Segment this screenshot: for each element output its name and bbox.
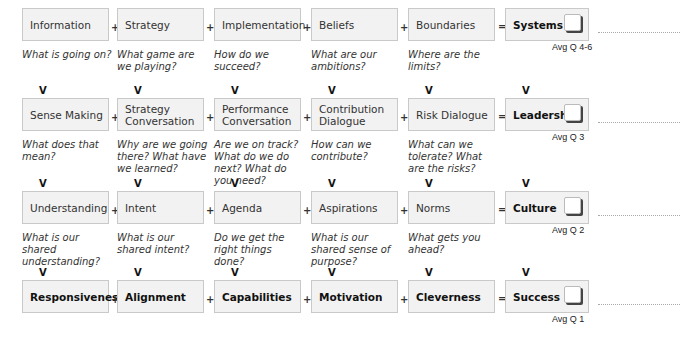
avg-label: Avg Q 2 [552, 225, 584, 235]
factor-box: Responsiveness [22, 280, 109, 313]
factor-box: Strategy [117, 8, 204, 41]
factor-box: Intent [117, 191, 204, 224]
factor-box: Information [22, 8, 109, 41]
factor-box: Alignment [117, 280, 204, 313]
question-text: Are we on track? What do we do next? Wha… [214, 139, 305, 187]
down-arrow-icon: V [425, 85, 433, 96]
avg-label: Avg Q 1 [552, 314, 584, 324]
down-arrow-icon: V [134, 267, 142, 278]
down-arrow-icon: V [328, 178, 336, 189]
factor-box: Performance Conversation [214, 98, 301, 131]
question-text: Do we get the right things done? [214, 232, 305, 268]
question-text: How can we contribute? [311, 139, 402, 163]
factor-box: Capabilities [214, 280, 301, 313]
factor-box: Norms [408, 191, 495, 224]
avg-label: Avg Q 3 [552, 132, 584, 142]
down-arrow-icon: V [522, 85, 530, 96]
question-text: What is going on? [22, 49, 113, 61]
factor-box: Contribution Dialogue [311, 98, 398, 131]
factor-box: Risk Dialogue [408, 98, 495, 131]
down-arrow-icon: V [134, 85, 142, 96]
factor-box: Sense Making [22, 98, 109, 131]
question-text: What does that mean? [22, 139, 113, 163]
down-arrow-icon: V [231, 85, 239, 96]
question-text: What is our shared intent? [117, 232, 208, 256]
question-text: What gets you ahead? [408, 232, 499, 256]
down-arrow-icon: V [328, 85, 336, 96]
down-arrow-icon: V [425, 178, 433, 189]
score-line [598, 215, 680, 216]
down-arrow-icon: V [231, 178, 239, 189]
down-arrow-icon: V [39, 178, 47, 189]
factor-box: Understanding [22, 191, 109, 224]
question-text: How do we succeed? [214, 49, 305, 73]
question-text: What is our shared sense of purpose? [311, 232, 402, 268]
factor-box: Cleverness [408, 280, 495, 313]
question-text: Why are we going there? What have we lea… [117, 139, 208, 175]
down-arrow-icon: V [522, 267, 530, 278]
down-arrow-icon: V [522, 178, 530, 189]
down-arrow-icon: V [134, 178, 142, 189]
score-line [598, 304, 680, 305]
down-arrow-icon: V [328, 267, 336, 278]
question-text: Where are the limits? [408, 49, 499, 73]
down-arrow-icon: V [39, 267, 47, 278]
score-line [598, 122, 680, 123]
score-checkbox[interactable] [564, 14, 581, 31]
factor-box: Agenda [214, 191, 301, 224]
avg-label: Avg Q 4-6 [552, 42, 592, 52]
question-text: What game are we playing? [117, 49, 208, 73]
question-text: What can we tolerate? What are the risks… [408, 139, 499, 175]
question-text: What are our ambitions? [311, 49, 402, 73]
score-line [598, 32, 680, 33]
down-arrow-icon: V [231, 267, 239, 278]
score-checkbox[interactable] [564, 104, 581, 121]
factor-box: Boundaries [408, 8, 495, 41]
down-arrow-icon: V [39, 85, 47, 96]
factor-box: Motivation [311, 280, 398, 313]
down-arrow-icon: V [425, 267, 433, 278]
factor-box: Strategy Conversation [117, 98, 204, 131]
score-checkbox[interactable] [564, 286, 581, 303]
factor-box: Beliefs [311, 8, 398, 41]
question-text: What is our shared understanding? [22, 232, 113, 268]
factor-box: Aspirations [311, 191, 398, 224]
factor-box: Implementation [214, 8, 301, 41]
score-checkbox[interactable] [564, 197, 581, 214]
